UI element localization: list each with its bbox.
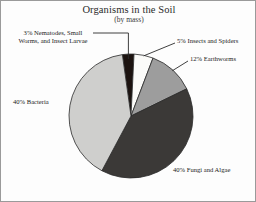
slice-label-nematodes: 3% Nematodes, Small Worms, and Insect La…	[11, 29, 95, 45]
slice-label-fungi: 40% Fungi and Algae	[173, 166, 230, 174]
leader-line-insects	[144, 43, 175, 56]
slice-label-earthworms: 12% Earthworms	[190, 55, 236, 63]
slice-label-insects: 5% Insects and Spiders	[177, 37, 238, 45]
slice-label-bacteria: 40% Bacteria	[13, 98, 49, 106]
leader-line-earthworms	[172, 61, 188, 71]
slice-label-nematodes-line2: Worms, and Insect Larvae	[18, 37, 87, 44]
chart-figure: Organisms in the Soil (by mass) 3% Nemat…	[0, 0, 256, 202]
pie-slice-group	[69, 54, 193, 178]
slice-label-nematodes-line1: 3% Nematodes, Small	[24, 29, 83, 36]
